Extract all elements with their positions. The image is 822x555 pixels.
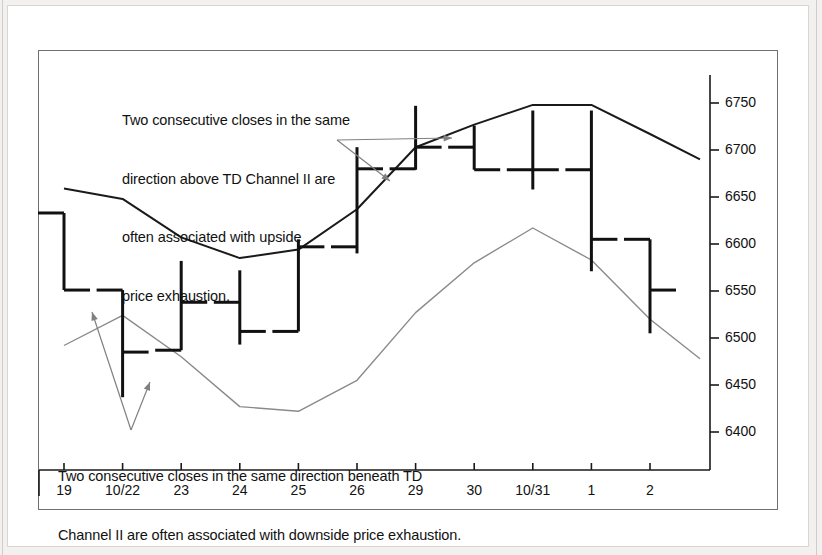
annotation-upside-line-4: price exhaustion.	[122, 287, 350, 307]
y-axis-tick-label: 6750	[725, 94, 756, 110]
x-axis-tick-label: 26	[349, 482, 365, 498]
x-axis-tick-label: 24	[232, 482, 248, 498]
y-axis-tick-label: 6600	[725, 235, 756, 251]
x-axis-tick-label: 1	[587, 482, 595, 498]
page-background: Two consecutive closes in the same direc…	[0, 0, 822, 555]
x-axis-tick-label: 19	[56, 482, 72, 498]
page-edge-rule-right	[816, 0, 817, 555]
y-axis-tick-label: 6650	[725, 188, 756, 204]
y-axis-tick-label: 6700	[725, 141, 756, 157]
annotation-downside-line-2: Channel II are often associated with dow…	[58, 526, 461, 546]
x-axis-tick-label: 10/22	[105, 482, 140, 498]
y-axis-tick-label: 6400	[725, 423, 756, 439]
annotation-upside-line-2: direction above TD Channel II are	[122, 170, 350, 190]
y-axis-tick-label: 6550	[725, 282, 756, 298]
x-axis-tick-label: 29	[408, 482, 424, 498]
x-axis-tick-label: 23	[173, 482, 189, 498]
x-axis-tick-label: 25	[291, 482, 307, 498]
annotation-upside-line-1: Two consecutive closes in the same	[122, 111, 350, 131]
x-axis-tick-label: 30	[466, 482, 482, 498]
x-axis-tick-label: 2	[646, 482, 654, 498]
annotation-upside-line-3: often associated with upside	[122, 228, 350, 248]
x-axis-tick-label: 10/31	[515, 482, 550, 498]
annotation-upside: Two consecutive closes in the same direc…	[122, 72, 350, 345]
y-axis-tick-label: 6500	[725, 329, 756, 345]
page-edge-rule-left	[2, 0, 3, 555]
y-axis-tick-label: 6450	[725, 376, 756, 392]
